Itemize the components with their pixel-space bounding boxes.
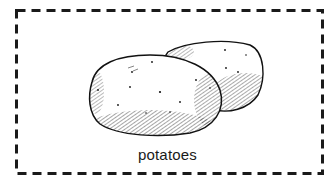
card-caption: potatoes xyxy=(0,146,335,163)
